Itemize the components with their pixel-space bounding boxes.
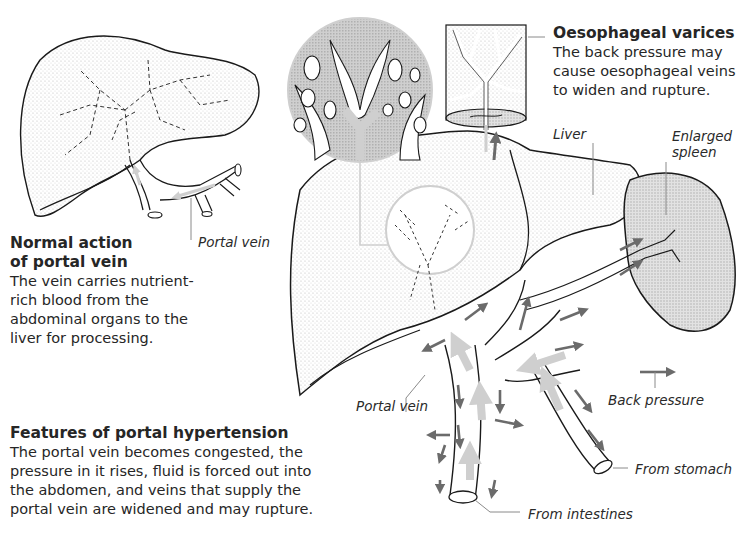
label-liver: Liver [553,126,586,142]
hypertension-panel: Features of portal hypertension The port… [10,424,350,519]
varices-body-line: cause oesophageal veins [553,62,752,81]
blood-flow-arrows [455,340,565,480]
stomach-vein-opening [592,458,614,477]
varices-body-line: The back pressure may [553,43,752,62]
normal-action-body-line: rich blood from the [10,291,270,310]
hypertension-body-line: the abdomen, and veins that supply the [10,481,350,500]
magnified-liver-tissue [288,18,432,162]
hypertension-heading: Features of portal hypertension [10,424,350,443]
intestine-vein-opening [449,491,477,503]
normal-action-body-line: liver for processing. [10,329,270,348]
normal-action-body-line: The vein carries nutrient- [10,272,270,291]
label-portal-vein: Portal vein [356,398,428,414]
back-pressure-legend-arrow-icon [640,372,672,388]
varices-heading: Oesophageal varices [553,24,752,43]
label-back-pressure: Back pressure [608,392,704,408]
normal-action-heading-line2: of portal vein [10,253,270,272]
normal-liver-illustration [21,36,259,240]
varices-body-line: to widen and rupture. [553,81,752,100]
label-from-intestines: From intestines [528,506,633,522]
label-enlarged-spleen-line1: Enlarged [672,128,732,144]
hypertension-body-line: portal vein are widened and may rupture. [10,500,350,519]
hypertension-body-line: The portal vein becomes congested, the [10,443,350,462]
normal-action-panel: Normal action of portal vein The vein ca… [10,234,270,348]
normal-action-body-line: abdominal organs to the [10,310,270,329]
label-enlarged-spleen-line2: spleen [672,144,717,160]
hypertension-body-line: pressure in it rises, fluid is forced ou… [10,462,350,481]
label-from-stomach: From stomach [635,461,732,477]
varices-panel: Oesophageal varices The back pressure ma… [553,24,752,100]
label-portal-vein-normal: Portal vein [198,234,270,250]
